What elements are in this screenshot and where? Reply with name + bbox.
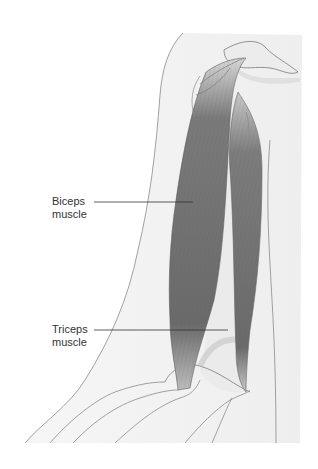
arm-anatomy-diagram: Biceps muscle Triceps muscle (0, 0, 318, 469)
triceps-label-line2: muscle (52, 336, 88, 349)
triceps-label-line1: Triceps (52, 323, 88, 336)
arm-illustration (0, 0, 318, 469)
arm-skin-outline (25, 33, 302, 443)
biceps-label-line1: Biceps (52, 195, 87, 208)
biceps-label-line2: muscle (52, 208, 87, 221)
triceps-label: Triceps muscle (52, 323, 88, 349)
biceps-label: Biceps muscle (52, 195, 87, 221)
